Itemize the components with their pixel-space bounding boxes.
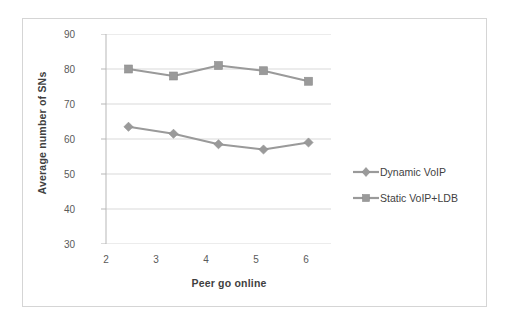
chart-svg [81,34,331,244]
plot-area [81,34,331,244]
y-tick-label-80: 80 [49,64,75,75]
x-axis-title: Peer go online [79,277,379,289]
axes [101,34,106,244]
x-tick-label-3: 3 [146,254,166,265]
x-tick-label-4: 4 [196,254,216,265]
x-tick-label-6: 6 [296,254,316,265]
legend-label-static-voip-ldb: Static VoIP+LDB [380,192,458,204]
legend-item-dynamic-voip[interactable]: Dynamic VoIP [353,159,483,185]
x-tick-label-5: 5 [246,254,266,265]
data-point-square [170,72,178,80]
chart-legend: Dynamic VoIP Static VoIP+LDB [353,159,483,211]
y-tick-label-70: 70 [49,99,75,110]
y-axis-title: Average number of SNs [36,13,48,253]
y-tick-label-60: 60 [49,134,75,145]
data-point-diamond [259,145,268,154]
data-point-diamond [214,140,223,149]
legend-item-static-voip-ldb[interactable]: Static VoIP+LDB [353,185,483,211]
data-series-layer [124,62,313,155]
y-tick-label-90: 90 [49,29,75,40]
data-point-diamond [169,129,178,138]
data-point-diamond [124,122,133,131]
data-point-square [260,67,268,75]
x-tick-label-2: 2 [96,254,116,265]
y-tick-label-30: 30 [49,239,75,250]
series-1 [124,122,313,154]
diamond-marker-icon [353,166,379,178]
y-tick-label-50: 50 [49,169,75,180]
chart-figure: Average number of SNs Peer go online 90 … [22,18,487,307]
series-2 [125,62,313,86]
legend-label-dynamic-voip: Dynamic VoIP [380,166,446,178]
data-point-square [215,62,223,70]
data-point-square [125,65,133,73]
y-tick-label-40: 40 [49,204,75,215]
square-marker-icon [353,192,379,204]
data-point-square [305,77,313,85]
